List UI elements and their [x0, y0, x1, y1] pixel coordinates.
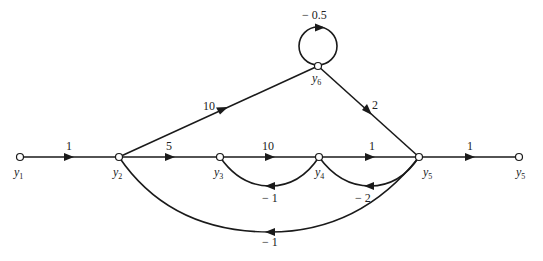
- branch-y4-y3: [220, 157, 319, 186]
- gain-y4-y3: − 1: [262, 191, 278, 205]
- gain-y5-out: 1: [467, 139, 473, 153]
- arrow-icon: [315, 24, 325, 32]
- arrow-icon: [216, 107, 228, 115]
- label-y5: y5: [422, 165, 432, 181]
- arrow-icon: [365, 153, 375, 161]
- arrow-icon: [362, 104, 372, 115]
- arrow-icon: [465, 153, 475, 161]
- gain-y2-y3: 5: [166, 139, 172, 153]
- node-y3: [217, 154, 224, 161]
- label-y5-out: y5: [515, 165, 525, 181]
- node-y1: [17, 154, 24, 161]
- gain-y1-y2: 1: [66, 139, 72, 153]
- gain-y6-loop: − 0.5: [302, 8, 327, 22]
- arrow-icon: [364, 182, 374, 190]
- label-y3: y3: [213, 165, 223, 181]
- signal-flow-graph: 1 5 10 1 1 10 2 − 0.5 − 1 − 2 − 1 y1 y2 …: [0, 0, 543, 261]
- node-y2: [116, 154, 123, 161]
- label-y2: y2: [112, 165, 122, 181]
- label-y1: y1: [13, 165, 23, 181]
- node-y5-out: [516, 154, 523, 161]
- label-y6: y6: [311, 71, 321, 87]
- branch-y5-y4: [319, 157, 419, 186]
- gain-y6-y5: 2: [372, 98, 378, 112]
- gain-y4-y5: 1: [369, 139, 375, 153]
- label-y4: y4: [314, 165, 324, 181]
- gain-y5-y2: − 1: [262, 235, 278, 249]
- arrow-icon: [265, 153, 275, 161]
- node-y5: [416, 154, 423, 161]
- arrow-icon: [265, 182, 275, 190]
- gain-y5-y4: − 2: [355, 191, 371, 205]
- arrow-icon: [165, 153, 175, 161]
- node-y4: [316, 154, 323, 161]
- gain-y2-y6: 10: [203, 99, 215, 113]
- self-loop-y6: [299, 27, 337, 65]
- arrow-icon: [64, 153, 74, 161]
- node-y6: [315, 63, 322, 70]
- gain-y3-y4: 10: [262, 139, 274, 153]
